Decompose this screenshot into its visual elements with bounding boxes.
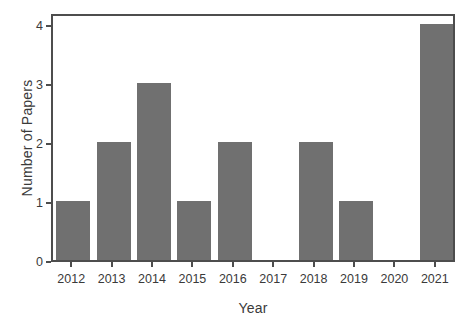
x-tick-mark bbox=[111, 262, 113, 267]
y-tick-label: 3 bbox=[36, 79, 43, 91]
x-tick-mark bbox=[232, 262, 234, 267]
bar-chart-figure: Number of Papers Year 01234 201220132014… bbox=[0, 0, 475, 324]
x-tick-mark bbox=[151, 262, 153, 267]
plot-area bbox=[51, 14, 455, 262]
x-tick-label: 2018 bbox=[291, 272, 337, 286]
x-tick-label: 2020 bbox=[371, 272, 417, 286]
x-tick-label: 2019 bbox=[331, 272, 377, 286]
bar bbox=[299, 142, 333, 260]
bar bbox=[97, 142, 131, 260]
y-tick-label: 4 bbox=[36, 20, 43, 32]
x-tick-mark bbox=[393, 262, 395, 267]
bar bbox=[218, 142, 252, 260]
y-tick-label: 0 bbox=[36, 256, 43, 268]
bar bbox=[56, 201, 90, 260]
x-tick-label: 2013 bbox=[89, 272, 135, 286]
x-axis-title: Year bbox=[51, 300, 455, 316]
x-tick-mark bbox=[191, 262, 193, 267]
x-tick-label: 2015 bbox=[169, 272, 215, 286]
x-tick-label: 2014 bbox=[129, 272, 175, 286]
bar bbox=[339, 201, 373, 260]
x-tick-mark bbox=[313, 262, 315, 267]
x-tick-label: 2017 bbox=[250, 272, 296, 286]
x-tick-mark bbox=[353, 262, 355, 267]
x-tick-mark bbox=[434, 262, 436, 267]
x-tick-mark bbox=[70, 262, 72, 267]
x-tick-label: 2012 bbox=[48, 272, 94, 286]
x-tick-label: 2016 bbox=[210, 272, 256, 286]
y-tick-label: 1 bbox=[36, 197, 43, 209]
y-tick-label: 2 bbox=[36, 138, 43, 150]
y-axis-title: Number of Papers bbox=[18, 14, 36, 262]
bar bbox=[137, 83, 171, 260]
bar bbox=[420, 24, 454, 260]
bar bbox=[177, 201, 211, 260]
x-tick-label: 2021 bbox=[412, 272, 458, 286]
x-tick-mark bbox=[272, 262, 274, 267]
